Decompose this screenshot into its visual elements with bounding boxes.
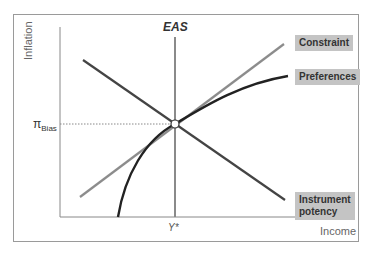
- y-axis-label: Inflation: [22, 21, 34, 60]
- equilibrium-point: [171, 120, 179, 128]
- instrument-potency-line: [83, 60, 285, 200]
- eas-label: EAS: [163, 20, 188, 34]
- y-star-tick: Y*: [168, 222, 179, 233]
- preferences-label: Preferences: [295, 69, 360, 85]
- pi-bias-tick: πBias: [33, 117, 57, 133]
- instrument-potency-label: Instrument potency: [295, 192, 355, 220]
- pi-subscript: Bias: [41, 124, 57, 133]
- instrument-text: Instrument: [299, 194, 351, 206]
- potency-text: potency: [299, 206, 351, 218]
- x-axis-label: Income: [320, 225, 356, 237]
- preferences-curve: [118, 76, 288, 217]
- constraint-label: Constraint: [295, 35, 353, 51]
